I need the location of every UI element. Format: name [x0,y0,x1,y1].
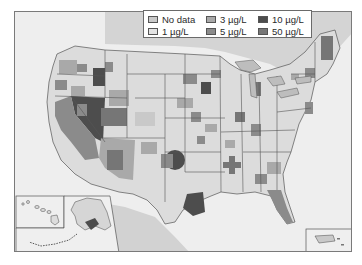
legend-item-1: 1 µg/L [148,25,206,37]
swatch-no-data [148,16,158,23]
legend-item-5: 5 µg/L [206,25,258,37]
legend-label: No data [162,14,195,25]
legend-label: 1 µg/L [162,26,189,37]
legend-label: 3 µg/L [220,14,247,25]
swatch-10 [258,16,268,23]
legend-label: 50 µg/L [272,26,304,37]
legend: No data 3 µg/L 10 µg/L 1 µg/L 5 µg/L 50 … [143,10,312,38]
us-map [15,12,352,252]
legend-item-50: 50 µg/L [258,25,312,37]
legend-item-3: 3 µg/L [206,13,258,25]
legend-label: 10 µg/L [272,14,304,25]
inset-hawaii [16,196,64,228]
swatch-1 [148,28,158,35]
swatch-50 [258,28,268,35]
inset-puerto-rico [306,229,352,252]
legend-label: 5 µg/L [220,26,247,37]
swatch-5 [206,28,216,35]
swatch-3 [206,16,216,23]
legend-item-no-data: No data [148,13,206,25]
map-frame [14,11,352,252]
legend-item-10: 10 µg/L [258,13,312,25]
